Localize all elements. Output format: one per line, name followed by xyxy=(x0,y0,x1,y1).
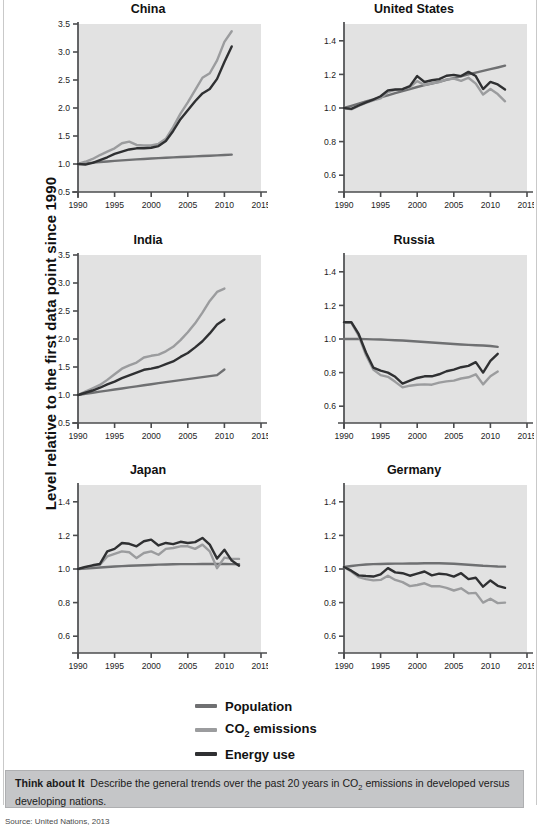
y-tick-label: 2.5 xyxy=(58,306,70,316)
chart-legend: Population CO2 emissions Energy use xyxy=(195,694,435,766)
panel-title-japan: Japan xyxy=(28,463,268,477)
panel-china: China 0.51.01.52.02.53.03.51990199520002… xyxy=(28,2,268,227)
x-tick-label: 1995 xyxy=(105,661,124,671)
plot-background xyxy=(78,255,261,423)
x-tick-label: 1990 xyxy=(68,661,87,671)
y-tick-label: 1.0 xyxy=(58,159,70,169)
page-border-left xyxy=(3,0,4,805)
y-tick-label: 1.4 xyxy=(58,497,70,507)
panel-title-india: India xyxy=(28,233,268,247)
x-tick-label: 2010 xyxy=(215,661,234,671)
y-tick-label: 1.4 xyxy=(324,497,336,507)
y-tick-label: 1.0 xyxy=(324,334,336,344)
y-tick-label: 3.5 xyxy=(58,250,70,260)
think-about-it-box: Think about It Describe the general tren… xyxy=(5,770,524,808)
x-tick-label: 1990 xyxy=(334,661,353,671)
legend-swatch-energy-use xyxy=(195,752,217,756)
y-tick-label: 1.5 xyxy=(58,131,70,141)
y-tick-label: 0.6 xyxy=(58,631,70,641)
chart-china: 0.51.01.52.02.53.03.51990199520002005201… xyxy=(28,16,268,231)
y-tick-label: 1.2 xyxy=(324,301,336,311)
x-tick-label: 2005 xyxy=(178,200,197,210)
x-tick-label: 1995 xyxy=(371,200,390,210)
legend-swatch-co2 xyxy=(195,728,217,732)
x-tick-label: 2010 xyxy=(215,431,234,441)
chart-svg: 0.60.81.01.21.4199019952000200520102015 xyxy=(28,477,268,688)
x-tick-label: 2010 xyxy=(215,200,234,210)
chart-japan: 0.60.81.01.21.4199019952000200520102015 xyxy=(28,477,268,692)
y-tick-label: 2.5 xyxy=(58,75,70,85)
x-tick-label: 2000 xyxy=(408,661,427,671)
plot-background xyxy=(344,485,527,653)
chart-united-states: 0.60.81.01.21.4199019952000200520102015 xyxy=(294,16,534,231)
x-tick-label: 2005 xyxy=(178,431,197,441)
x-tick-label: 2010 xyxy=(481,431,500,441)
x-tick-label: 2000 xyxy=(408,431,427,441)
y-tick-label: 0.5 xyxy=(58,187,70,197)
x-tick-label: 1990 xyxy=(334,200,353,210)
x-tick-label: 2015 xyxy=(251,431,268,441)
source-line: Source: United Nations, 2013 xyxy=(5,817,110,825)
y-tick-label: 3.0 xyxy=(58,47,70,57)
panel-germany: Germany 0.60.81.01.21.419901995200020052… xyxy=(294,463,534,688)
x-tick-label: 2000 xyxy=(142,200,161,210)
y-tick-label: 3.0 xyxy=(58,278,70,288)
x-tick-label: 2015 xyxy=(517,661,534,671)
y-tick-label: 1.0 xyxy=(58,390,70,400)
x-tick-label: 1995 xyxy=(105,431,124,441)
x-tick-label: 2005 xyxy=(178,661,197,671)
x-tick-label: 2000 xyxy=(142,661,161,671)
y-tick-label: 0.8 xyxy=(324,368,336,378)
x-tick-label: 2010 xyxy=(481,661,500,671)
plot-background xyxy=(78,24,261,192)
x-tick-label: 2015 xyxy=(517,200,534,210)
chart-svg: 0.51.01.52.02.53.03.51990199520002005201… xyxy=(28,247,268,458)
y-tick-label: 0.6 xyxy=(324,170,336,180)
panel-russia: Russia 0.60.81.01.21.4199019952000200520… xyxy=(294,233,534,458)
plot-background xyxy=(78,485,261,653)
x-tick-label: 1995 xyxy=(371,661,390,671)
chart-svg: 0.60.81.01.21.4199019952000200520102015 xyxy=(294,247,534,458)
legend-swatch-population xyxy=(195,704,217,708)
panel-title-china: China xyxy=(28,2,268,16)
legend-label-energy-use: Energy use xyxy=(225,747,295,762)
panel-japan: Japan 0.60.81.01.21.41990199520002005201… xyxy=(28,463,268,688)
x-tick-label: 2015 xyxy=(517,431,534,441)
y-tick-label: 3.5 xyxy=(58,19,70,29)
x-tick-label: 1995 xyxy=(105,200,124,210)
chart-germany: 0.60.81.01.21.4199019952000200520102015 xyxy=(294,477,534,692)
x-tick-label: 1990 xyxy=(68,431,87,441)
y-tick-label: 1.2 xyxy=(324,531,336,541)
plot-background xyxy=(344,24,527,192)
legend-label-population: Population xyxy=(225,699,292,714)
x-tick-label: 2015 xyxy=(251,661,268,671)
think-about-it-heading: Think about It xyxy=(15,777,84,789)
y-tick-label: 0.8 xyxy=(58,598,70,608)
x-tick-label: 2000 xyxy=(408,200,427,210)
x-tick-label: 1990 xyxy=(68,200,87,210)
x-tick-label: 2015 xyxy=(251,200,268,210)
y-tick-label: 0.6 xyxy=(324,631,336,641)
legend-label-co2: CO2 emissions xyxy=(225,721,317,739)
y-tick-label: 0.6 xyxy=(324,401,336,411)
think-about-it-body-pre: Describe the general trends over the pas… xyxy=(90,777,358,789)
legend-item-energy-use: Energy use xyxy=(195,742,435,766)
y-tick-label: 0.5 xyxy=(58,418,70,428)
x-tick-label: 2005 xyxy=(444,200,463,210)
panel-title-germany: Germany xyxy=(294,463,534,477)
y-tick-label: 2.0 xyxy=(58,103,70,113)
panel-title-russia: Russia xyxy=(294,233,534,247)
chart-svg: 0.60.81.01.21.4199019952000200520102015 xyxy=(294,477,534,688)
panel-india: India 0.51.01.52.02.53.03.51990199520002… xyxy=(28,233,268,458)
y-tick-label: 1.4 xyxy=(324,267,336,277)
think-about-it-text: Think about It Describe the general tren… xyxy=(15,777,514,808)
y-tick-label: 1.2 xyxy=(324,70,336,80)
y-tick-label: 1.0 xyxy=(324,103,336,113)
y-tick-label: 0.8 xyxy=(324,598,336,608)
chart-svg: 0.51.01.52.02.53.03.51990199520002005201… xyxy=(28,16,268,227)
panel-title-united-states: United States xyxy=(294,2,534,16)
y-tick-label: 1.0 xyxy=(324,564,336,574)
y-tick-label: 1.5 xyxy=(58,362,70,372)
x-tick-label: 1990 xyxy=(334,431,353,441)
x-tick-label: 1995 xyxy=(371,431,390,441)
